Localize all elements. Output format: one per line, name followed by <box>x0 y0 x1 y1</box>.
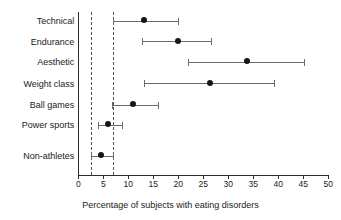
interval-cap-high-technical <box>178 18 179 25</box>
x-tick-label-20: 20 <box>166 179 190 189</box>
interval-cap-low-endurance <box>142 38 143 45</box>
data-row-aesthetic <box>0 57 341 68</box>
data-row-endurance <box>0 36 341 47</box>
data-row-power-sports <box>0 120 341 131</box>
x-tick-30 <box>228 175 229 179</box>
data-point-non-athletes <box>98 152 104 158</box>
x-tick-label-50: 50 <box>316 179 340 189</box>
data-point-endurance <box>175 38 181 44</box>
interval-cap-low-non-athletes <box>91 153 92 160</box>
x-tick-25 <box>203 175 204 179</box>
x-axis-title: Percentage of subjects with eating disor… <box>0 200 341 210</box>
interval-cap-high-aesthetic <box>304 59 305 66</box>
data-point-aesthetic <box>244 58 250 64</box>
x-tick-label-10: 10 <box>116 179 140 189</box>
data-point-weight-class <box>207 80 213 86</box>
interval-cap-high-weight-class <box>274 80 275 87</box>
x-tick-20 <box>178 175 179 179</box>
x-tick-35 <box>253 175 254 179</box>
data-row-weight-class <box>0 78 341 89</box>
x-tick-label-35: 35 <box>241 179 265 189</box>
x-tick-label-0: 0 <box>66 179 90 189</box>
x-tick-50 <box>328 175 329 179</box>
x-tick-40 <box>278 175 279 179</box>
x-tick-10 <box>128 175 129 179</box>
interval-cap-high-power-sports <box>122 122 123 129</box>
data-point-technical <box>141 17 147 23</box>
x-tick-5 <box>103 175 104 179</box>
x-tick-label-15: 15 <box>141 179 165 189</box>
data-point-ball-games <box>130 101 136 107</box>
interval-cap-low-weight-class <box>144 80 145 87</box>
data-row-ball-games <box>0 100 341 111</box>
interval-cap-high-endurance <box>211 38 212 45</box>
interval-cap-low-ball-games <box>112 102 113 109</box>
x-tick-45 <box>303 175 304 179</box>
data-row-technical <box>0 16 341 27</box>
x-tick-label-45: 45 <box>291 179 315 189</box>
interval-cap-low-power-sports <box>98 122 99 129</box>
interval-cap-low-technical <box>113 18 114 25</box>
interval-cap-high-ball-games <box>158 102 159 109</box>
x-tick-label-30: 30 <box>216 179 240 189</box>
x-tick-label-25: 25 <box>191 179 215 189</box>
interval-cap-high-non-athletes <box>113 153 114 160</box>
interval-cap-low-aesthetic <box>188 59 189 66</box>
x-tick-label-5: 5 <box>91 179 115 189</box>
x-tick-label-40: 40 <box>266 179 290 189</box>
x-tick-0 <box>78 175 79 179</box>
x-tick-15 <box>153 175 154 179</box>
dot-plot-chart: 05101520253035404550 TechnicalEnduranceA… <box>0 0 341 220</box>
data-point-power-sports <box>105 121 111 127</box>
data-row-non-athletes <box>0 151 341 162</box>
